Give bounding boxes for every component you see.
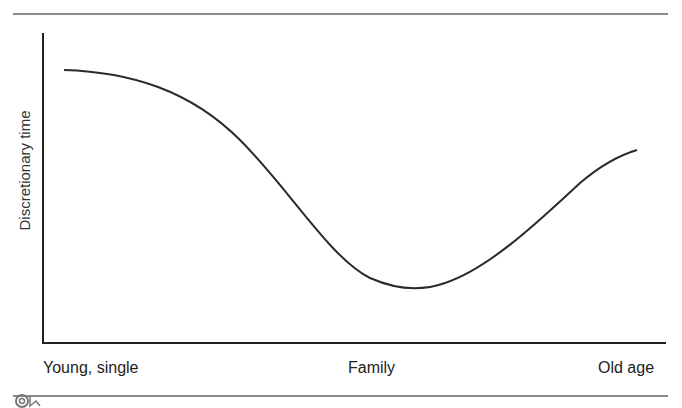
- line-chart: [0, 0, 682, 408]
- y-axis-label: Discretionary time: [16, 101, 33, 241]
- x-tick-young-single: Young, single: [43, 359, 139, 377]
- discretionary-time-curve: [64, 70, 637, 288]
- bottom-rule: [13, 395, 668, 397]
- x-tick-old-age: Old age: [598, 359, 654, 377]
- x-tick-family: Family: [348, 359, 395, 377]
- publisher-logo-icon: [14, 392, 42, 408]
